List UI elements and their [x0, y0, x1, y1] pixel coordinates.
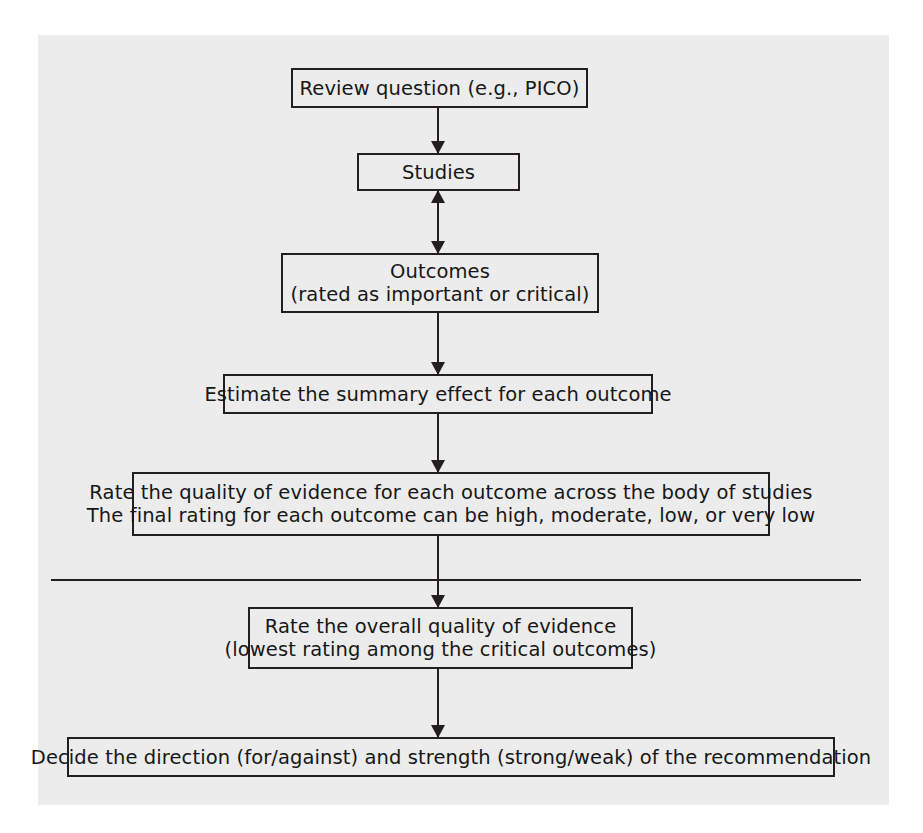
node-estimate-summary-effect-line-1: Estimate the summary effect for each out… — [204, 383, 671, 406]
node-rate-quality-of-evidence: Rate the quality of evidence for each ou… — [132, 472, 770, 536]
node-review-question-line-1: Review question (e.g., PICO) — [300, 77, 580, 100]
connector-review-to-studies — [437, 108, 439, 153]
node-outcomes-line-1: Outcomes — [390, 260, 490, 283]
node-outcomes: Outcomes (rated as important or critical… — [281, 253, 599, 313]
node-rate-overall-quality-line-1: Rate the overall quality of evidence — [265, 615, 617, 638]
node-rate-quality-of-evidence-line-2: The final rating for each outcome can be… — [87, 504, 815, 527]
section-divider — [51, 579, 861, 581]
connector-rate-quality-to-overall — [437, 536, 439, 607]
connector-estimate-to-rate-quality — [437, 414, 439, 472]
figure-canvas: Review question (e.g., PICO) Studies Out… — [0, 0, 923, 833]
connector-overall-to-decide — [437, 669, 439, 737]
node-review-question: Review question (e.g., PICO) — [291, 68, 588, 108]
connector-studies-to-outcomes — [437, 191, 439, 253]
connector-outcomes-to-estimate — [437, 313, 439, 374]
node-decide-recommendation-line-1: Decide the direction (for/against) and s… — [31, 746, 871, 769]
node-studies-line-1: Studies — [402, 161, 475, 184]
node-rate-overall-quality: Rate the overall quality of evidence (lo… — [248, 607, 633, 669]
node-rate-quality-of-evidence-line-1: Rate the quality of evidence for each ou… — [89, 481, 812, 504]
node-rate-overall-quality-line-2: (lowest rating among the critical outcom… — [224, 638, 656, 661]
node-studies: Studies — [357, 153, 520, 191]
node-estimate-summary-effect: Estimate the summary effect for each out… — [223, 374, 653, 414]
node-decide-recommendation: Decide the direction (for/against) and s… — [67, 737, 835, 777]
arrowhead-up-icon — [431, 190, 445, 203]
flowchart-panel: Review question (e.g., PICO) Studies Out… — [38, 35, 889, 805]
node-outcomes-line-2: (rated as important or critical) — [291, 283, 590, 306]
